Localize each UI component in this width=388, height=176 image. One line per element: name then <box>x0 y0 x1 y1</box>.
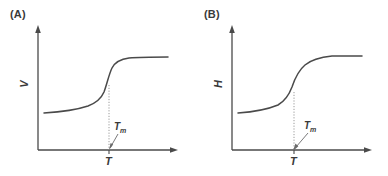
panel-b-x-axis-label: T <box>290 155 297 167</box>
panel-a-tm-subscript: m <box>120 127 126 134</box>
panel-b-y-axis-arrowhead <box>229 25 235 33</box>
panel-b-x-axis-arrowhead <box>364 147 372 153</box>
panel-a-y-axis-arrowhead <box>35 25 41 33</box>
figure-container: (A) V T Tm (B) <box>0 0 388 176</box>
panel-b-tm-label: Tm <box>304 120 316 133</box>
panel-a-curve <box>44 57 168 113</box>
panel-a: (A) V T Tm <box>0 0 194 176</box>
panel-b-y-axis-label: H <box>212 70 224 98</box>
panel-b-tm-leader <box>296 133 308 147</box>
panel-a-x-axis-label: T <box>105 155 112 167</box>
panel-b: (B) H T Tm <box>194 0 388 176</box>
panel-a-x-axis-arrowhead <box>170 147 178 153</box>
panel-b-tm-subscript: m <box>310 126 316 133</box>
panel-b-curve <box>238 56 362 113</box>
panel-a-y-axis-label: V <box>18 70 30 98</box>
panel-a-tm-label: Tm <box>114 121 126 134</box>
